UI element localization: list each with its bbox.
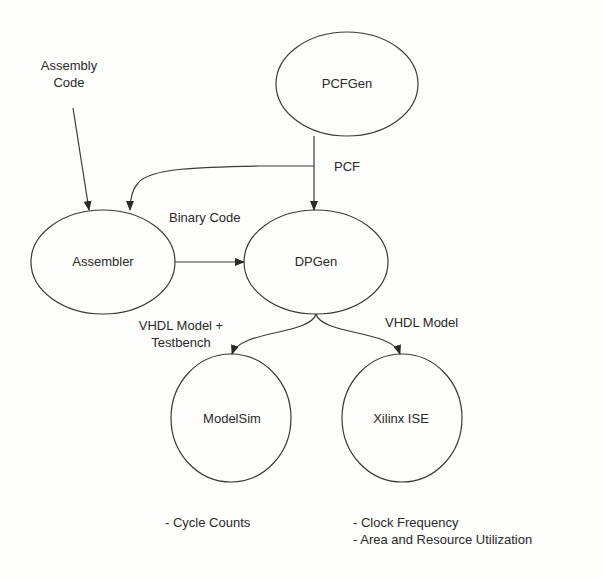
assembly-code-line1: Assembly: [34, 57, 104, 74]
modelsim-output-list: - Cycle Counts: [165, 514, 250, 531]
binary-code-edge-label: Binary Code: [169, 209, 241, 226]
vhdl-testbench-arrow: [232, 314, 316, 354]
xilinx-output-list: - Clock Frequency - Area and Resource Ut…: [353, 514, 532, 548]
pcf-edge-label: PCF: [334, 158, 360, 175]
assembler-label: Assembler: [72, 254, 133, 270]
xilinx-label: Xilinx ISE: [373, 411, 429, 427]
assembly-code-label: Assembly Code: [34, 57, 104, 91]
vhdl-testbench-line2: Testbench: [126, 334, 236, 351]
vhdl-testbench-line1: VHDL Model +: [126, 317, 236, 334]
dpgen-label: DPGen: [295, 254, 338, 270]
modelsim-label: ModelSim: [203, 411, 261, 427]
pcfgen-label: PCFGen: [322, 76, 373, 92]
xilinx-output-item: - Area and Resource Utilization: [353, 531, 532, 548]
vhdl-testbench-edge-label: VHDL Model + Testbench: [126, 317, 236, 351]
xilinx-output-item: - Clock Frequency: [353, 514, 532, 531]
pcf-to-assembler-arrow: [130, 166, 314, 210]
assembly-code-line2: Code: [34, 74, 104, 91]
assembly-code-arrow: [73, 108, 89, 210]
modelsim-output-item: - Cycle Counts: [165, 514, 250, 531]
vhdl-model-edge-label: VHDL Model: [385, 314, 458, 331]
